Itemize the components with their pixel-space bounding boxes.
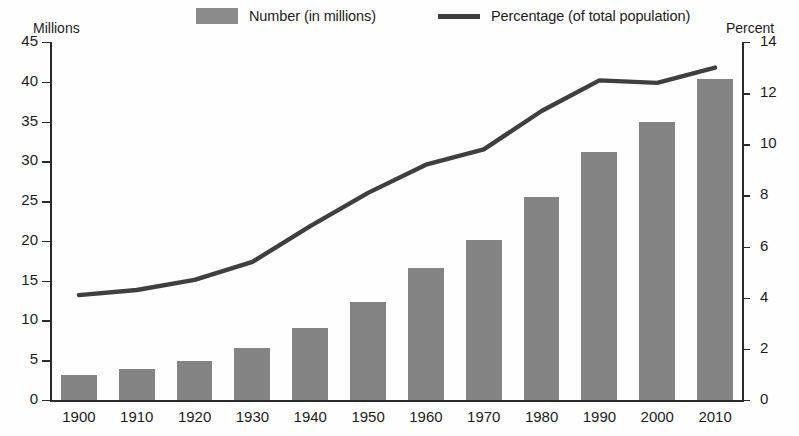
left-tick-label: 5 (30, 350, 38, 367)
legend-label-number: Number (in millions) (249, 8, 376, 24)
left-axis-caption: Millions (33, 20, 80, 36)
right-tick-mark (742, 93, 750, 94)
bar-1950 (350, 302, 386, 400)
right-tick-mark (742, 195, 750, 196)
left-tick-mark (42, 42, 50, 43)
bar-1940 (292, 328, 328, 400)
right-tick-mark (742, 349, 750, 350)
left-tick-label: 35 (21, 112, 38, 129)
x-label-1950: 1950 (351, 408, 384, 425)
legend-item-number: Number (in millions) (196, 6, 376, 26)
bar-1900 (61, 375, 97, 400)
left-tick-mark (42, 281, 50, 282)
right-tick-label: 6 (760, 237, 768, 254)
x-label-1910: 1910 (120, 408, 153, 425)
left-tick-mark (42, 201, 50, 202)
left-tick-mark (42, 360, 50, 361)
left-tick-label: 20 (21, 231, 38, 248)
x-label-1990: 1990 (583, 408, 616, 425)
left-tick-mark (42, 400, 50, 401)
right-tick-mark (742, 144, 750, 145)
bar-2010 (697, 79, 733, 400)
legend-item-percentage: Percentage (of total population) (438, 6, 690, 26)
bar-1980 (524, 197, 560, 400)
chart-legend: Number (in millions) Percentage (of tota… (0, 6, 799, 28)
x-label-1960: 1960 (409, 408, 442, 425)
x-label-2010: 2010 (698, 408, 731, 425)
x-label-1940: 1940 (294, 408, 327, 425)
x-axis-line (50, 400, 744, 402)
legend-label-percentage: Percentage (of total population) (491, 8, 690, 24)
right-tick-label: 8 (760, 185, 768, 202)
right-tick-mark (742, 298, 750, 299)
x-label-1900: 1900 (62, 408, 95, 425)
right-tick-label: 2 (760, 339, 768, 356)
x-label-2000: 2000 (641, 408, 674, 425)
left-tick-mark (42, 320, 50, 321)
right-axis-line (742, 42, 744, 400)
bar-2000 (639, 122, 675, 400)
left-tick-mark (42, 82, 50, 83)
legend-swatch-square-icon (196, 8, 238, 24)
right-tick-label: 10 (760, 134, 777, 151)
left-tick-mark (42, 241, 50, 242)
left-tick-mark (42, 122, 50, 123)
left-tick-mark (42, 161, 50, 162)
plot-area: 454035302520151050 14121086420 190019101… (50, 42, 744, 400)
bar-1960 (408, 268, 444, 400)
x-label-1920: 1920 (178, 408, 211, 425)
chart-root: Number (in millions) Percentage (of tota… (0, 0, 799, 436)
bar-1910 (119, 369, 155, 400)
left-tick-label: 0 (30, 390, 38, 407)
right-tick-label: 12 (760, 83, 777, 100)
left-tick-label: 45 (21, 32, 38, 49)
right-tick-mark (742, 400, 750, 401)
left-tick-label: 15 (21, 271, 38, 288)
x-label-1930: 1930 (236, 408, 269, 425)
left-tick-label: 30 (21, 151, 38, 168)
bar-1920 (177, 361, 213, 400)
right-tick-label: 4 (760, 288, 768, 305)
left-tick-label: 40 (21, 72, 38, 89)
bar-1970 (466, 240, 502, 400)
legend-swatch-line-icon (438, 14, 480, 19)
right-tick-mark (742, 42, 750, 43)
left-tick-label: 25 (21, 191, 38, 208)
x-label-1970: 1970 (467, 408, 500, 425)
right-tick-mark (742, 247, 750, 248)
right-tick-label: 14 (760, 32, 777, 49)
bar-1990 (581, 152, 617, 400)
left-axis-line (50, 42, 52, 400)
bar-1930 (234, 348, 270, 401)
left-tick-label: 10 (21, 310, 38, 327)
right-tick-label: 0 (760, 390, 768, 407)
x-label-1980: 1980 (525, 408, 558, 425)
